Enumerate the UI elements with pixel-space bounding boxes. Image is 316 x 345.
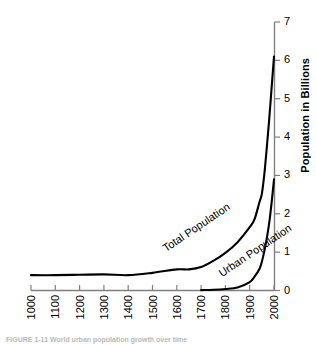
curve-label-total-population: Total Population — [160, 200, 232, 254]
curve-label-urban-population: Urban Population — [216, 221, 293, 278]
figure-caption: FIGURE 1-11 World urban population growt… — [6, 336, 311, 345]
y-axis-title-text: Population in Billions — [299, 58, 311, 173]
y-axis-title: Population in Billions — [294, 0, 316, 343]
